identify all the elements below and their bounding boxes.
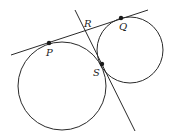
label-R: R (83, 18, 92, 29)
diagram-canvas: P R Q S (0, 0, 170, 139)
point-S-dot (100, 62, 104, 66)
label-Q: Q (119, 21, 127, 32)
tangent-line-PQ (11, 10, 148, 55)
point-Q-dot (119, 16, 123, 20)
label-P: P (45, 47, 53, 58)
label-S: S (93, 67, 100, 78)
point-P-dot (47, 41, 51, 45)
large-circle (18, 42, 106, 130)
tangent-circles-diagram: P R Q S (0, 0, 170, 139)
small-circle (97, 17, 163, 83)
